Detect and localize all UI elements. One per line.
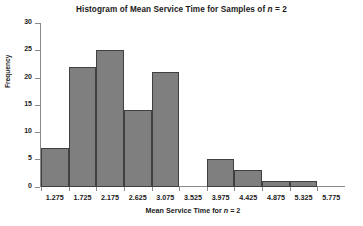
x-tick bbox=[290, 187, 291, 191]
histogram-bar bbox=[152, 72, 180, 186]
x-tick-label: 3.075 bbox=[156, 193, 174, 202]
chart-title: Histogram of Mean Service Time for Sampl… bbox=[0, 5, 363, 14]
chart-title-prefix: Histogram of Mean Service Time for Sampl… bbox=[76, 5, 268, 14]
x-tick bbox=[41, 187, 42, 191]
x-tick-label: 3.525 bbox=[184, 193, 202, 202]
y-tick: 20 bbox=[35, 78, 40, 79]
y-tick-label: 15 bbox=[24, 100, 32, 107]
histogram-bar bbox=[41, 148, 69, 186]
x-tick bbox=[234, 187, 235, 191]
x-tick bbox=[69, 187, 70, 191]
y-tick-label: 20 bbox=[24, 73, 32, 80]
x-tick bbox=[124, 187, 125, 191]
y-axis-label: Frequency bbox=[4, 55, 11, 88]
histogram-bar bbox=[207, 159, 235, 186]
y-tick: 15 bbox=[35, 105, 40, 106]
y-tick-label: 25 bbox=[24, 45, 32, 52]
x-tick bbox=[317, 187, 318, 191]
x-tick-label: 5.775 bbox=[322, 193, 340, 202]
y-tick-label: 10 bbox=[24, 127, 32, 134]
x-tick bbox=[179, 187, 180, 191]
x-tick-label: 3.975 bbox=[212, 193, 230, 202]
x-tick-label: 1.725 bbox=[73, 193, 91, 202]
y-tick: 25 bbox=[35, 50, 40, 51]
histogram-bar bbox=[290, 181, 318, 186]
y-tick: 10 bbox=[35, 132, 40, 133]
histogram-chart: Histogram of Mean Service Time for Sampl… bbox=[0, 0, 363, 226]
x-tick bbox=[152, 187, 153, 191]
y-tick-label: 30 bbox=[24, 18, 32, 25]
x-tick bbox=[96, 187, 97, 191]
histogram-bar bbox=[234, 170, 262, 186]
x-axis-label-prefix: Mean Service Time for bbox=[146, 206, 224, 215]
x-tick-label: 4.425 bbox=[239, 193, 257, 202]
y-tick-label: 0 bbox=[28, 182, 32, 189]
x-axis-label-suffix: = 2 bbox=[228, 206, 240, 215]
y-tick: 0 bbox=[35, 187, 40, 188]
x-tick-label: 2.625 bbox=[129, 193, 147, 202]
histogram-bar bbox=[124, 110, 152, 186]
y-tick: 5 bbox=[35, 159, 40, 160]
x-tick-label: 5.325 bbox=[295, 193, 313, 202]
histogram-bar bbox=[69, 67, 97, 187]
chart-title-suffix: = 2 bbox=[273, 5, 287, 14]
y-tick: 30 bbox=[35, 23, 40, 24]
y-tick-label: 5 bbox=[28, 154, 32, 161]
histogram-bar bbox=[96, 50, 124, 186]
x-tick-label: 2.175 bbox=[101, 193, 119, 202]
x-tick bbox=[207, 187, 208, 191]
histogram-bar bbox=[262, 181, 290, 186]
x-tick bbox=[262, 187, 263, 191]
plot-area bbox=[41, 23, 345, 187]
x-tick-label: 4.875 bbox=[267, 193, 285, 202]
x-axis-label: Mean Service Time for n = 2 bbox=[41, 206, 345, 215]
x-tick-label: 1.275 bbox=[46, 193, 64, 202]
